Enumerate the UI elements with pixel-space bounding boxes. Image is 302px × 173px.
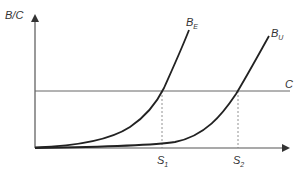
curve-b-u xyxy=(35,36,269,148)
curve-b-e xyxy=(35,30,189,148)
x-tick-s2: S2 xyxy=(233,154,244,168)
benefit-cost-diagram: B/C BE BU C S1 S2 xyxy=(0,0,302,173)
y-axis-label: B/C xyxy=(5,9,23,21)
x-tick-s1: S1 xyxy=(157,154,168,168)
curve-b-e-label: BE xyxy=(186,16,198,30)
curve-b-u-label: BU xyxy=(271,27,284,41)
cost-line-label: C xyxy=(285,78,293,90)
